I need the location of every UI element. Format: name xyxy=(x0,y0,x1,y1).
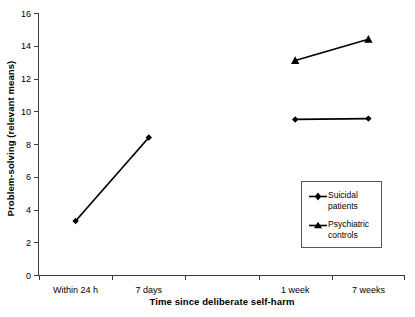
x-tick xyxy=(332,275,333,280)
y-axis-title: Problem-solving (relevant means) xyxy=(0,0,22,277)
legend-swatch-diamond-icon xyxy=(308,191,328,202)
y-tick: 16 xyxy=(34,13,38,14)
x-tick-label: Within 24 h xyxy=(53,285,98,295)
data-point-diamond-marker xyxy=(292,116,298,122)
y-tick-label: 4 xyxy=(26,205,31,215)
x-axis-line xyxy=(38,275,405,276)
legend-label-suicidal-patients: Suicidal patients xyxy=(328,190,358,212)
y-tick: 6 xyxy=(34,177,38,178)
legend-item-psychiatric-controls: Psychiatric controls xyxy=(308,219,369,241)
y-tick-label: 2 xyxy=(26,238,31,248)
y-tick: 8 xyxy=(34,144,38,145)
series-psychiatric-controls xyxy=(291,35,373,64)
y-tick: 14 xyxy=(34,46,38,47)
chart-figure: Problem-solving (relevant means) 0246810… xyxy=(0,0,415,317)
y-tick-label: 6 xyxy=(26,172,31,182)
data-point-triangle-marker xyxy=(364,35,372,43)
y-tick-label: 14 xyxy=(21,41,31,51)
y-tick-label: 10 xyxy=(21,107,31,117)
y-tick: 12 xyxy=(34,79,38,80)
series-line-segment xyxy=(295,39,368,60)
legend-swatch-triangle-icon xyxy=(308,220,328,231)
y-tick-label: 0 xyxy=(26,271,31,281)
x-tick xyxy=(185,275,186,280)
legend-item-suicidal-patients: Suicidal patients xyxy=(308,190,358,212)
y-tick: 0 xyxy=(34,275,38,276)
x-tick-label: 1 week xyxy=(281,285,310,295)
x-tick xyxy=(259,275,260,280)
y-tick-label: 12 xyxy=(21,74,31,84)
series-line-segment xyxy=(76,137,149,221)
y-tick: 10 xyxy=(34,111,38,112)
y-tick-label: 8 xyxy=(26,140,31,150)
series-line-segment xyxy=(295,119,368,120)
x-tick-label: 7 days xyxy=(136,285,163,295)
x-tick xyxy=(39,275,40,280)
y-axis-title-text: Problem-solving (relevant means) xyxy=(6,61,17,217)
y-tick: 4 xyxy=(34,210,38,211)
x-tick xyxy=(112,275,113,280)
x-axis-title: Time since deliberate self-harm xyxy=(39,296,405,307)
chart-legend: Suicidal patients Psychiatric controls xyxy=(301,181,382,248)
x-tick-label: 7 weeks xyxy=(352,285,385,295)
data-point-diamond-marker xyxy=(365,115,371,121)
y-tick: 2 xyxy=(34,242,38,243)
legend-label-psychiatric-controls: Psychiatric controls xyxy=(328,219,369,241)
x-tick xyxy=(404,275,405,280)
y-tick-label: 16 xyxy=(21,9,31,19)
